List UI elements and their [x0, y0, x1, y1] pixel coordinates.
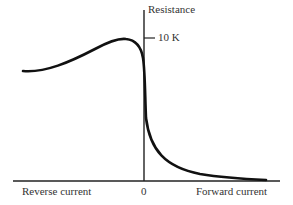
x-right-label: Forward current	[196, 185, 267, 197]
chart-canvas	[0, 0, 293, 205]
x-origin-label: 0	[141, 185, 147, 197]
y-axis-label: Resistance	[148, 3, 195, 15]
x-left-label: Reverse current	[22, 185, 91, 197]
y-tick-label: 10 K	[158, 31, 180, 43]
